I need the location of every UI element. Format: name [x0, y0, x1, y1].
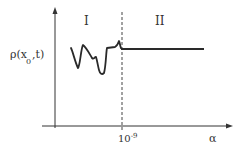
diagram-canvas	[0, 0, 246, 151]
x-axis-tick-label: 10-9	[118, 132, 138, 144]
y-axis-arrow-icon	[53, 7, 58, 14]
y-axis-label: ρ(x0,t)	[10, 48, 44, 61]
x-axis-label: α	[209, 132, 216, 145]
density-curve-region-i	[71, 41, 121, 74]
region-label-i: I	[84, 14, 89, 28]
region-label-ii: II	[155, 14, 164, 28]
x-axis-arrow-icon	[226, 124, 233, 129]
